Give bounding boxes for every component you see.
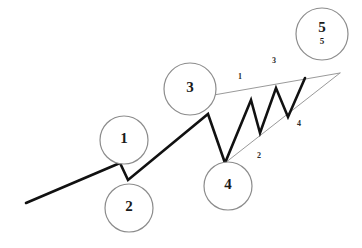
marker-5-subtext: 5 — [320, 36, 325, 46]
elliott-wave-diagram: 1234 123455 — [0, 0, 362, 248]
marker-1-text: 1 — [120, 130, 128, 146]
marker-5: 55 — [296, 8, 348, 60]
marker-5-text: 5 — [318, 19, 326, 35]
sub-label-1: 1 — [238, 72, 242, 81]
wave-chart-svg: 1234 123455 — [0, 0, 362, 248]
sub-label-3: 3 — [272, 56, 276, 65]
marker-3: 3 — [164, 63, 216, 115]
marker-4: 4 — [204, 162, 252, 210]
marker-2-text: 2 — [125, 198, 133, 214]
sub-label-2: 2 — [257, 151, 261, 160]
marker-3-text: 3 — [186, 79, 194, 95]
marker-1: 1 — [100, 116, 148, 164]
marker-4-text: 4 — [224, 176, 232, 192]
marker-2: 2 — [105, 184, 153, 232]
sub-label-4: 4 — [297, 119, 301, 128]
